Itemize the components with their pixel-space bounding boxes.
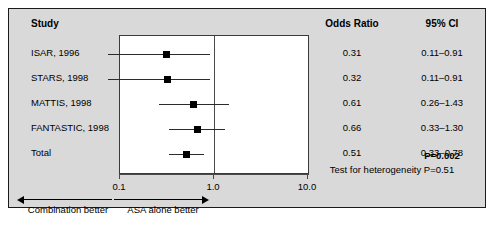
left-arrow-head-icon — [17, 196, 24, 204]
row-study-label: Total — [31, 148, 131, 158]
x-axis-tick — [213, 174, 214, 179]
x-axis-tick — [307, 174, 308, 179]
row-study-label: FANTASTIC, 1998 — [31, 123, 131, 133]
point-estimate-marker — [190, 101, 197, 108]
row-odds-ratio: 0.32 — [309, 73, 395, 83]
x-axis-tick-label: 1.0 — [193, 182, 233, 192]
x-axis-line — [119, 174, 309, 175]
plot-area — [119, 35, 309, 174]
forest-plot-figure: Study Odds Ratio 95% CI ISAR, 19960.310.… — [8, 8, 486, 208]
x-axis-tick-label: 0.1 — [99, 182, 139, 192]
row-study-label: MATTIS, 1998 — [31, 98, 131, 108]
row-confidence-interval: 0.26–1.43 — [399, 98, 485, 108]
row-confidence-interval: 0.11–0.91 — [399, 48, 485, 58]
right-arrow-head-icon — [202, 196, 209, 204]
heterogeneity-test: Test for heterogeneity P=0.51 — [299, 165, 485, 175]
row-odds-ratio: 0.51 — [309, 148, 395, 158]
row-confidence-interval: 0.33–1.30 — [399, 123, 485, 133]
row-study-label: ISAR, 1996 — [31, 48, 131, 58]
right-arrow-line — [114, 199, 202, 200]
row-odds-ratio: 0.31 — [309, 48, 395, 58]
summary-marker — [183, 151, 190, 158]
row-odds-ratio: 0.66 — [309, 123, 395, 133]
row-odds-ratio: 0.61 — [309, 98, 395, 108]
x-axis-tick — [119, 174, 120, 179]
row-study-label: STARS, 1998 — [31, 73, 131, 83]
left-arrow-line — [24, 199, 112, 200]
column-header-study: Study — [31, 19, 59, 29]
x-axis-tick-label: 10.0 — [287, 182, 327, 192]
overall-p-value: P=0.002 — [399, 151, 485, 161]
row-confidence-interval: 0.11–0.91 — [399, 73, 485, 83]
column-header-odds-ratio: Odds Ratio — [309, 19, 395, 29]
point-estimate-marker — [163, 51, 170, 58]
point-estimate-marker — [194, 126, 201, 133]
right-arrow-label: ASA alone better — [103, 205, 223, 215]
point-estimate-marker — [164, 76, 171, 83]
column-header-ci: 95% CI — [399, 19, 485, 29]
